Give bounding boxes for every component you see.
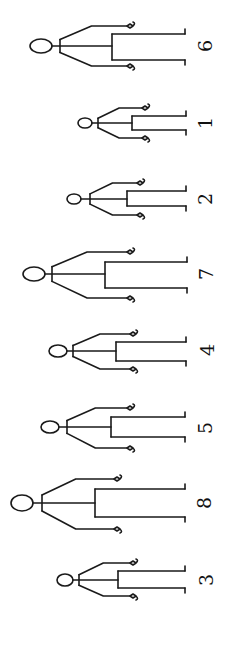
stick-figure-6 — [30, 22, 185, 70]
figure-right-arm — [52, 281, 127, 298]
figure-right-arm — [67, 433, 127, 448]
figure-left-arm — [60, 26, 127, 40]
stick-figure-2 — [67, 179, 186, 219]
hand-icon — [130, 367, 138, 373]
figure-left-arm — [67, 408, 127, 421]
figure-number-label: 2 — [195, 189, 215, 209]
hand-icon — [114, 475, 122, 481]
hand-icon — [142, 104, 150, 110]
stick-figures-diagram — [0, 0, 230, 647]
figure-left-arm — [42, 479, 114, 495]
stick-figure-8 — [11, 475, 185, 533]
figure-head — [49, 345, 67, 357]
figure-head — [67, 194, 81, 204]
figure-right-arm — [42, 511, 114, 529]
hand-icon — [130, 330, 138, 336]
stick-figure-7 — [23, 248, 187, 302]
hand-icon — [114, 527, 122, 533]
figure-left-arm — [90, 183, 137, 194]
figure-number-label: 1 — [195, 113, 215, 133]
figure-head — [23, 267, 45, 281]
hand-icon — [137, 179, 145, 185]
figure-number-label: 4 — [197, 340, 217, 360]
figure-right-arm — [73, 357, 130, 369]
hand-icon — [130, 594, 138, 600]
figure-right-arm — [79, 585, 130, 596]
hand-icon — [127, 248, 135, 254]
stick-figure-5 — [41, 404, 185, 452]
hand-icon — [130, 559, 138, 565]
figure-number-label: 3 — [196, 570, 216, 590]
figure-head — [41, 421, 59, 433]
figure-head — [78, 118, 92, 128]
figure-number-label: 6 — [195, 36, 215, 56]
figure-number-label: 5 — [195, 418, 215, 438]
hand-icon — [137, 213, 145, 219]
figure-head — [30, 39, 52, 53]
hand-icon — [127, 404, 135, 410]
figure-number-label: 7 — [196, 264, 216, 284]
stick-figure-3 — [57, 559, 185, 600]
figure-head — [11, 495, 33, 511]
figure-left-arm — [73, 334, 130, 345]
figure-left-arm — [79, 563, 130, 575]
hand-icon — [142, 136, 150, 142]
stick-figure-1 — [78, 104, 186, 142]
hand-icon — [127, 64, 135, 70]
figure-left-arm — [52, 252, 127, 267]
hand-icon — [127, 22, 135, 28]
figure-number-label: 8 — [194, 493, 214, 513]
hand-icon — [127, 296, 135, 302]
stick-figure-4 — [49, 330, 186, 373]
figure-head — [57, 574, 73, 586]
hand-icon — [127, 446, 135, 452]
